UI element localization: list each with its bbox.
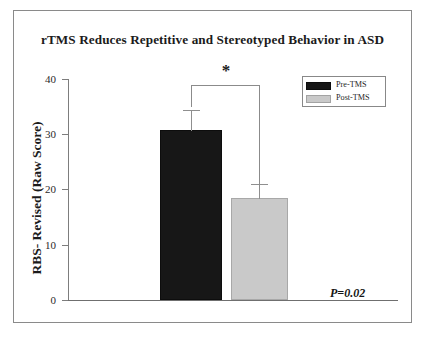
significance-asterisk: * — [206, 62, 246, 79]
y-tick-0 — [62, 300, 68, 301]
legend-box: Pre-TMS Post-TMS — [302, 76, 386, 107]
legend-swatch-pre-tms — [306, 82, 331, 90]
plot-area: 40 30 20 10 0 RBS- Revised (Raw Score) *… — [0, 0, 428, 340]
legend-label-post-tms: Post-TMS — [336, 94, 370, 102]
y-tick-30 — [62, 134, 68, 135]
legend-item-post-tms: Post-TMS — [306, 93, 382, 104]
legend-label-pre-tms: Pre-TMS — [336, 81, 366, 89]
error-bar-cap-pre-tms — [183, 110, 200, 111]
error-bar-stem-pre-tms — [191, 110, 192, 131]
y-tick-10 — [62, 245, 68, 246]
bar-post-tms — [231, 198, 288, 300]
significance-bracket-right-arm — [259, 85, 260, 190]
legend-item-pre-tms: Pre-TMS — [306, 80, 382, 91]
y-tick-40 — [62, 79, 68, 80]
p-value-annotation: P=0.02 — [330, 286, 365, 301]
y-axis-title: RBS- Revised (Raw Score) — [29, 83, 45, 313]
bar-pre-tms — [160, 130, 222, 300]
y-tick-20 — [62, 189, 68, 190]
legend-swatch-post-tms — [306, 95, 331, 103]
y-axis-line — [68, 79, 69, 301]
significance-bracket-left-arm — [191, 85, 192, 107]
figure-canvas: rTMS Reduces Repetitive and Stereotyped … — [0, 0, 428, 340]
significance-bracket-top-bar — [191, 85, 260, 86]
